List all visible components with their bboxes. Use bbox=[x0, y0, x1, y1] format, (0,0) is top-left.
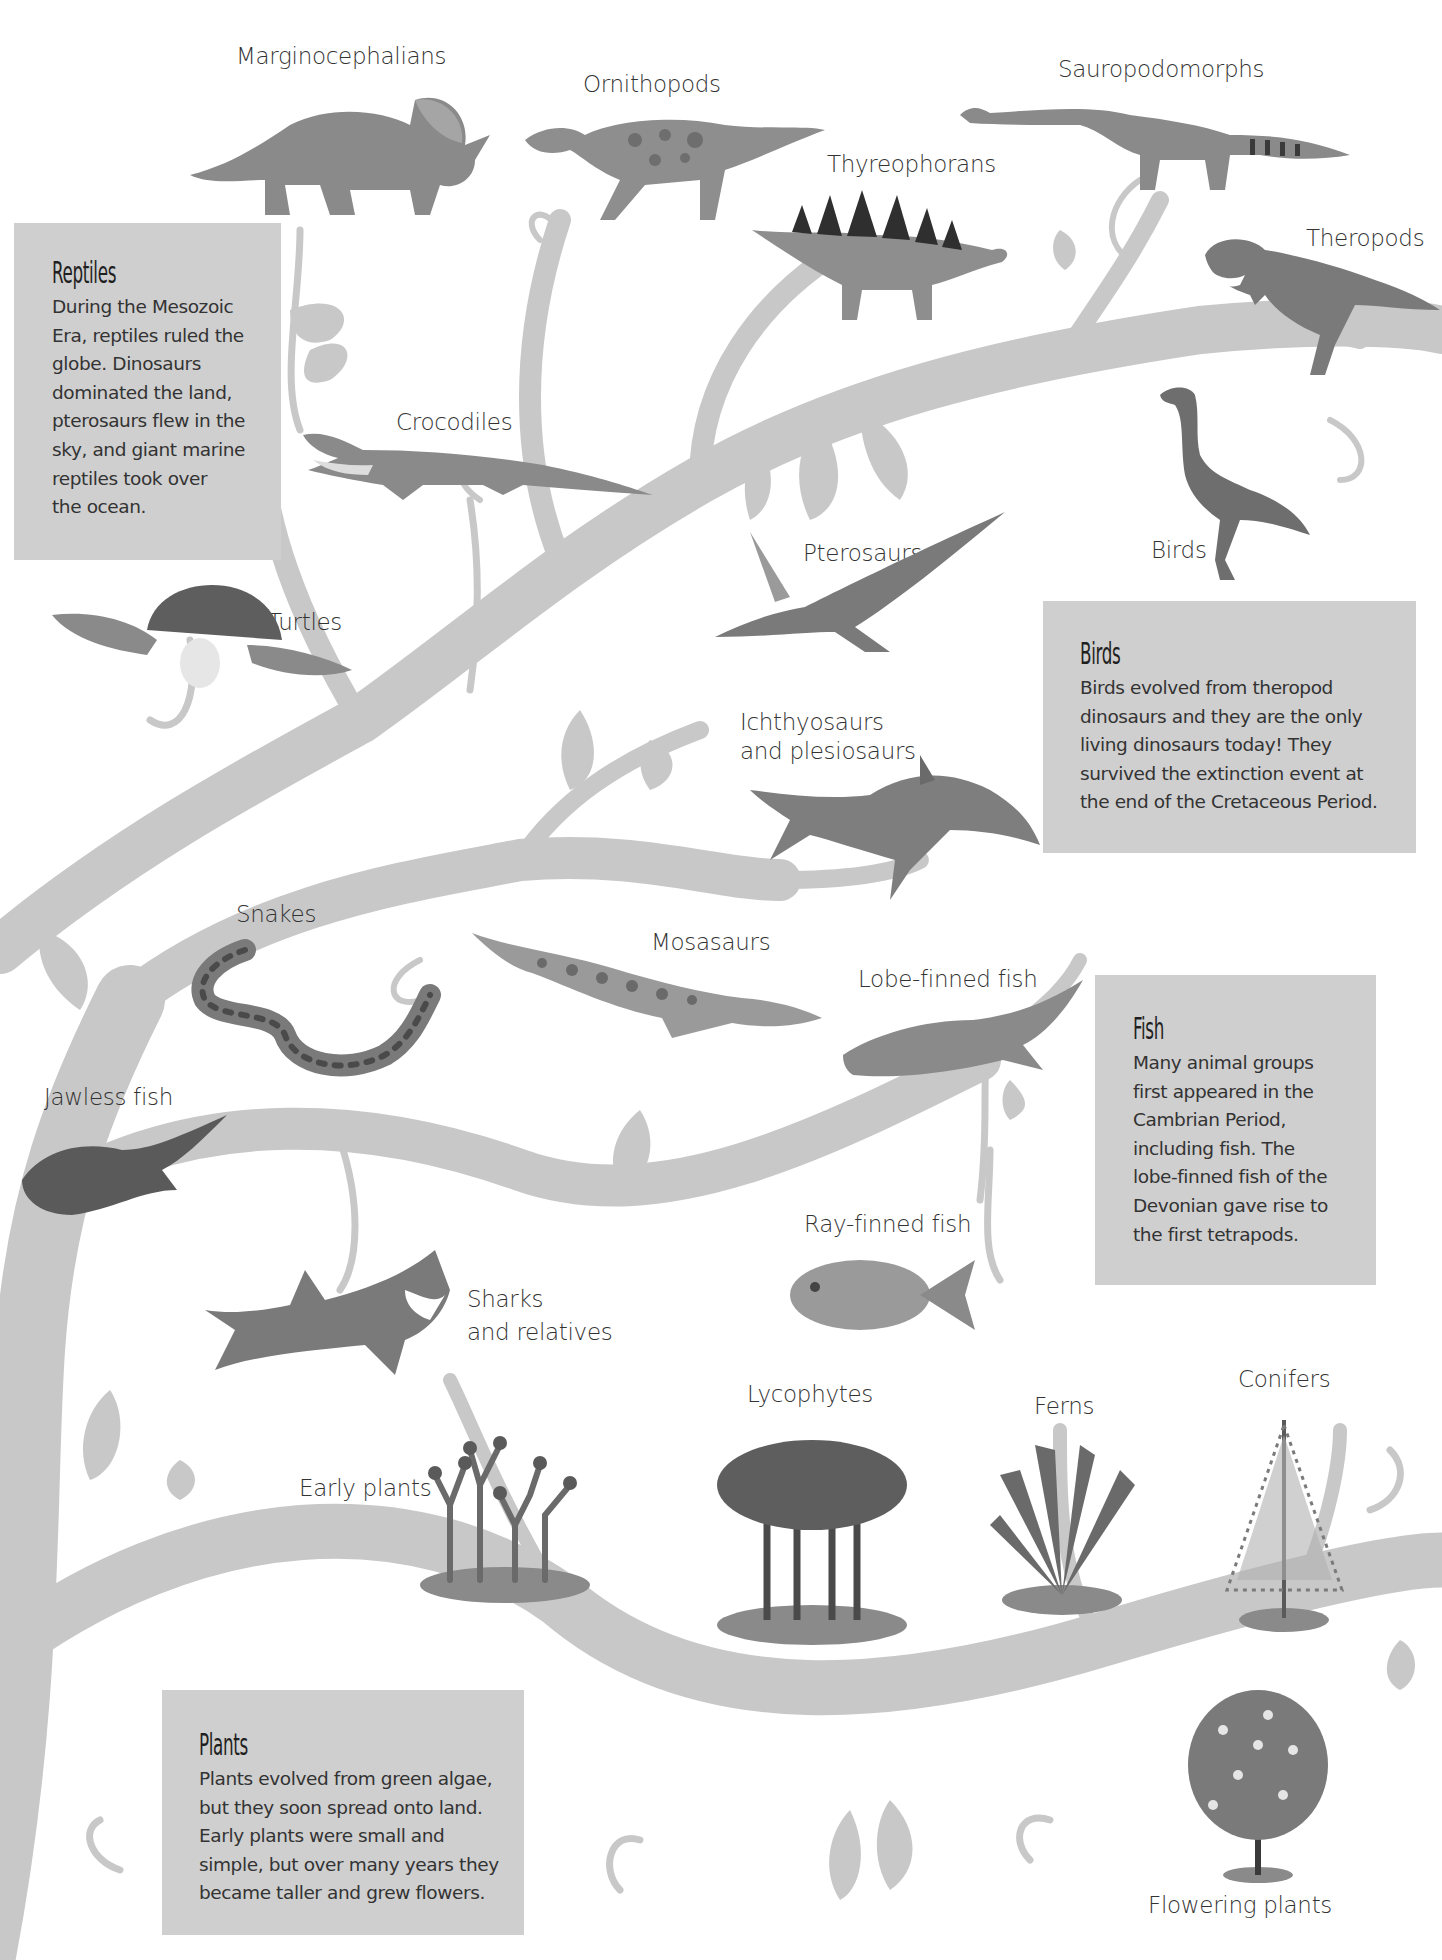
shark-icon bbox=[205, 1250, 450, 1375]
label-snakes: Snakes bbox=[236, 900, 316, 929]
label-ferns: Ferns bbox=[1034, 1392, 1094, 1421]
pterosaur-icon bbox=[715, 512, 1005, 657]
snake-icon bbox=[185, 940, 445, 1075]
label-flowering-plants: Flowering plants bbox=[1148, 1891, 1332, 1920]
label-marginocephalians: Marginocephalians bbox=[236, 42, 446, 71]
infobox-body: Birds evolved from theropod dinosaurs an… bbox=[1080, 674, 1416, 817]
stegosaurus-icon bbox=[752, 190, 1012, 330]
crocodile-icon bbox=[303, 430, 653, 510]
sea-turtle-icon bbox=[52, 585, 352, 690]
sauropod-icon bbox=[960, 95, 1360, 195]
infobox-title: Fish bbox=[1133, 1012, 1284, 1045]
infobox-body: During the Mesozoic Era, reptiles ruled … bbox=[52, 293, 281, 522]
label-sharks: Sharksand relatives bbox=[467, 1283, 612, 1350]
mosasaur-icon bbox=[472, 928, 822, 1038]
ichthyosaur-icon bbox=[750, 740, 1040, 900]
flowering-tree-icon bbox=[1178, 1690, 1338, 1885]
triceratops-icon bbox=[190, 85, 500, 220]
infobox-reptiles: Reptiles During the Mesozoic Era, reptil… bbox=[14, 223, 281, 560]
infobox-title: Plants bbox=[199, 1728, 401, 1761]
infobox-title: Reptiles bbox=[52, 256, 194, 289]
ray-finned-fish-icon bbox=[790, 1245, 975, 1345]
label-jawless-fish: Jawless fish bbox=[44, 1083, 173, 1112]
infobox-title: Birds bbox=[1080, 637, 1288, 670]
label-ornithopods: Ornithopods bbox=[583, 70, 721, 99]
label-early-plants: Early plants bbox=[299, 1474, 431, 1503]
fern-icon bbox=[990, 1445, 1135, 1615]
label-ray-finned-fish: Ray-finned fish bbox=[804, 1210, 971, 1239]
infobox-birds: Birds Birds evolved from theropod dinosa… bbox=[1043, 601, 1416, 853]
flightless-bird-icon bbox=[1150, 385, 1320, 585]
infobox-body: Plants evolved from green algae, but the… bbox=[199, 1765, 524, 1908]
infobox-body: Many animal groups first appeared in the… bbox=[1133, 1049, 1376, 1249]
label-sauropodomorphs: Sauropodomorphs bbox=[1058, 55, 1264, 84]
infobox-plants: Plants Plants evolved from green algae, … bbox=[162, 1690, 524, 1935]
tyrannosaurus-icon bbox=[1205, 235, 1440, 375]
jawless-fish-icon bbox=[22, 1110, 227, 1220]
early-plant-icon bbox=[420, 1425, 590, 1605]
infobox-fish: Fish Many animal groups first appeared i… bbox=[1095, 975, 1376, 1285]
lobe-finned-fish-icon bbox=[843, 980, 1083, 1085]
lycophyte-icon bbox=[712, 1430, 907, 1645]
label-lycophytes: Lycophytes bbox=[747, 1380, 873, 1409]
label-conifers: Conifers bbox=[1238, 1365, 1330, 1394]
conifer-icon bbox=[1222, 1420, 1347, 1635]
